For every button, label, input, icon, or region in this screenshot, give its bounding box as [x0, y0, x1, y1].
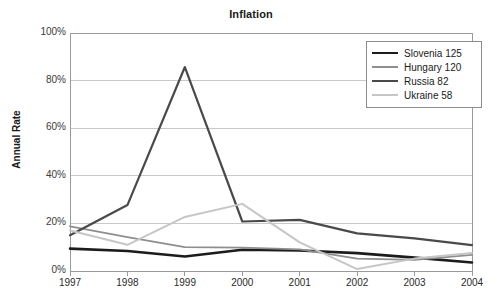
y-tick-label: 0% [32, 264, 66, 275]
x-tick-label: 2001 [278, 277, 322, 288]
x-tick-label: 2002 [335, 277, 379, 288]
x-tick-label: 2003 [393, 277, 437, 288]
y-tick-label: 100% [32, 26, 66, 37]
x-tick-label: 1999 [163, 277, 207, 288]
y-tick-label: 80% [32, 74, 66, 85]
legend-item-label: Slovenia 125 [404, 48, 462, 59]
legend-item-label: Ukraine 58 [404, 90, 452, 101]
inflation-line-chart: Inflation Annual Rate 0%20%40%60%80%100%… [0, 0, 502, 307]
legend-item-label: Hungary 120 [404, 62, 461, 73]
y-tick-label: 40% [32, 169, 66, 180]
y-tick-label: 60% [32, 121, 66, 132]
legend-line-swatch-icon [372, 66, 398, 68]
y-tick-label: 20% [32, 216, 66, 227]
legend-item[interactable]: Russia 82 [372, 74, 476, 88]
x-tick-label: 1998 [105, 277, 149, 288]
legend-item[interactable]: Ukraine 58 [372, 88, 476, 102]
x-tick-label: 2000 [220, 277, 264, 288]
legend-item[interactable]: Hungary 120 [372, 60, 476, 74]
x-axis-ticks [70, 271, 472, 276]
x-tick-label: 2004 [450, 277, 494, 288]
series-line-ukraine-58 [70, 204, 472, 269]
legend-line-swatch-icon [372, 94, 398, 96]
x-tick-label: 1997 [48, 277, 92, 288]
chart-legend: Slovenia 125Hungary 120Russia 82Ukraine … [366, 41, 482, 108]
legend-line-swatch-icon [372, 52, 398, 54]
legend-line-swatch-icon [372, 80, 398, 82]
legend-item[interactable]: Slovenia 125 [372, 46, 476, 60]
legend-item-label: Russia 82 [404, 76, 448, 87]
